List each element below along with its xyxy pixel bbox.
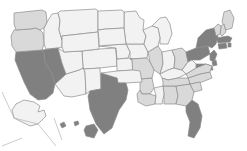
us-choropleth-map: AlaskaAlabamaArkansasArizonaCaliforniaCo… [0,0,247,151]
map-canvas: AlaskaAlabamaArkansasArizonaCaliforniaCo… [0,0,247,151]
state-ar[interactable]: Arkansas [140,78,154,94]
state-tn[interactable]: Tennessee [162,78,190,86]
state-nd[interactable]: North Dakota [98,10,124,30]
state-wa[interactable]: Washington [14,10,47,30]
state-ri[interactable]: Rhode Island [228,43,231,47]
state-sd[interactable]: South Dakota [98,28,126,46]
state-ct[interactable]: Connecticut [218,43,227,49]
state-ms[interactable]: Mississippi [154,86,164,104]
state-al[interactable]: Alabama [163,86,178,104]
state-or[interactable]: Oregon [11,28,44,52]
state-co[interactable]: Colorado [82,48,117,69]
